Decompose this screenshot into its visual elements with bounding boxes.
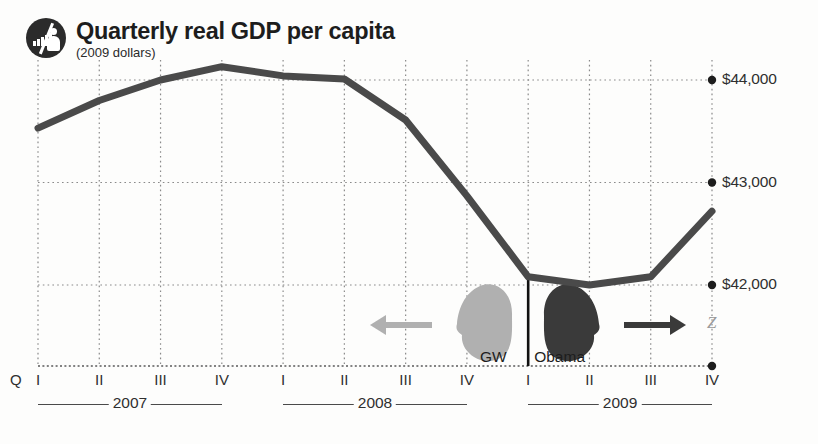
title-block: Quarterly real GDP per capita (2009 doll… (76, 18, 395, 60)
x-axis-tick-label: II (340, 371, 348, 388)
x-axis-tick-label: III (154, 371, 167, 388)
year-group-label: 2008 (354, 394, 396, 412)
x-axis-tick-label: I (281, 371, 285, 388)
badge-person-body-icon (47, 36, 60, 51)
x-axis-tick-label: IV (705, 371, 719, 388)
x-axis-tick-label: IV (460, 371, 474, 388)
obama-administration-label: Obama (534, 348, 585, 366)
page-title: Quarterly real GDP per capita (76, 19, 395, 44)
gdp-line-series (38, 67, 712, 285)
left-arrow-icon (370, 315, 432, 335)
page-subtitle: (2009 dollars) (76, 46, 395, 60)
y-axis-tick-label: $42,000 (722, 275, 777, 293)
chart-page: Quarterly real GDP per capita (2009 doll… (0, 0, 818, 444)
chart-header: Quarterly real GDP per capita (2009 doll… (26, 18, 395, 60)
vertical-gridlines (38, 60, 712, 366)
arrow-head (370, 315, 386, 335)
bar-chart-person-badge-icon (26, 18, 66, 58)
x-axis-tick-label: III (644, 371, 657, 388)
y-axis-tick-label: $44,000 (722, 70, 777, 88)
x-axis-tick-label: IV (215, 371, 229, 388)
x-axis-tick-label: I (526, 371, 530, 388)
y-tick-dot (708, 76, 716, 84)
y-tick-dot (708, 178, 716, 186)
quarter-prefix-label: Q (10, 371, 22, 388)
year-group-label: 2007 (109, 394, 151, 412)
y-tick-dot (708, 281, 716, 289)
x-axis-tick-label: III (399, 371, 412, 388)
plot-area: $42,000$43,000$44,000 Q IIIIIIIVIIIIIIIV… (0, 0, 818, 444)
arrow-head (670, 315, 686, 335)
x-axis-tick-label: II (95, 371, 103, 388)
year-group-label: 2009 (599, 394, 641, 412)
axis-corner-dot (708, 362, 716, 370)
scan-artifact-mark: Z (707, 313, 716, 333)
right-arrow-icon (624, 315, 686, 335)
badge-person-head-icon (50, 28, 57, 35)
horizontal-gridlines (38, 80, 712, 285)
x-axis-tick-label: I (36, 371, 40, 388)
gw-administration-label: GW (480, 348, 507, 366)
y-axis-tick-label: $43,000 (722, 173, 777, 191)
x-axis-tick-label: II (585, 371, 593, 388)
